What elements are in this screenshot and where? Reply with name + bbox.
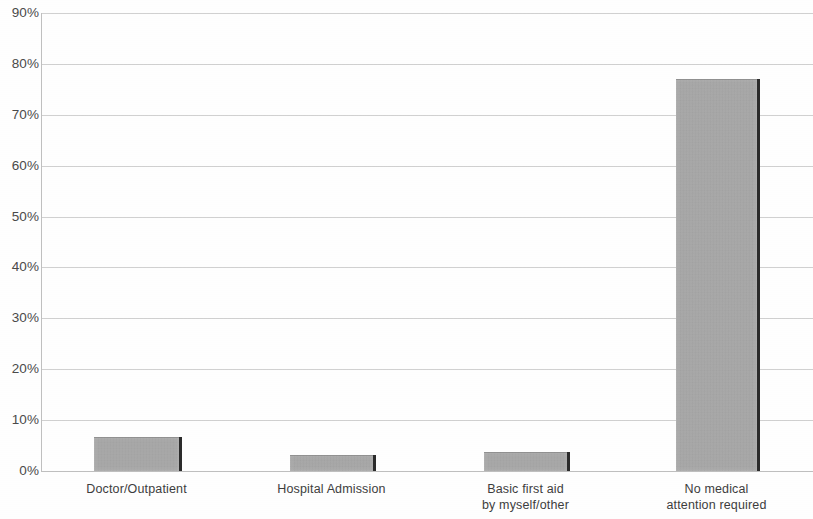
x-tick-label-line: Basic first aid <box>487 482 564 496</box>
bars-layer <box>0 0 813 519</box>
x-tick-label-3: Basic first aidby myself/other <box>421 481 631 513</box>
bar-fill <box>94 437 179 471</box>
x-tick-label-line: No medical <box>684 482 748 496</box>
bar-top-edge <box>484 452 567 453</box>
bar-1 <box>94 437 179 471</box>
x-tick-label-4: No medicalattention required <box>612 481 813 513</box>
bar-fill <box>290 455 373 471</box>
bar-fill <box>676 79 757 471</box>
bar-right-edge-shadow <box>179 437 182 471</box>
x-tick-label-line: attention required <box>612 497 813 513</box>
x-tick-label-line: Doctor/Outpatient <box>86 482 187 496</box>
x-tick-label-line: by myself/other <box>421 497 631 513</box>
bar-chart: 90%80%70%60%50%40%30%20%10%0% Doctor/Out… <box>0 0 813 519</box>
x-tick-label-line: Hospital Admission <box>277 482 385 496</box>
bar-2 <box>290 455 373 471</box>
bar-3 <box>484 452 567 471</box>
bar-top-edge <box>94 437 179 438</box>
bar-right-edge-shadow <box>757 79 760 471</box>
bar-right-edge-shadow <box>567 452 570 471</box>
bar-fill <box>484 452 567 471</box>
bar-4 <box>676 79 757 471</box>
bar-top-edge <box>290 455 373 456</box>
bar-top-edge <box>676 79 757 80</box>
x-tick-label-1: Doctor/Outpatient <box>32 481 242 497</box>
bar-right-edge-shadow <box>373 455 376 471</box>
x-tick-label-2: Hospital Admission <box>227 481 437 497</box>
